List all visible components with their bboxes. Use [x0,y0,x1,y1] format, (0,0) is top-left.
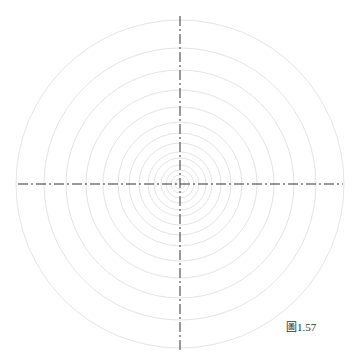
figure-caption: 圖1.57 [286,318,316,334]
concentric-circles-diagram [0,0,353,364]
